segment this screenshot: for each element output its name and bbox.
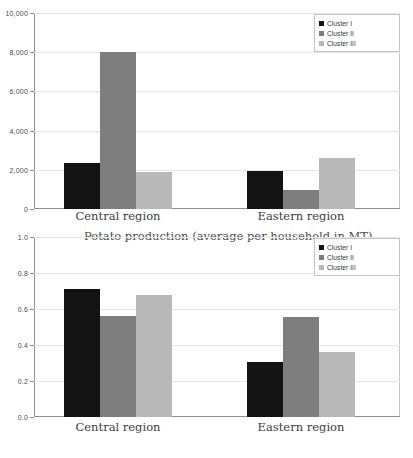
y-tick-mark <box>30 417 34 418</box>
legend-label: Cluster III <box>327 264 356 271</box>
legend-swatch-icon <box>319 245 324 250</box>
y-tick-label: 4,000 <box>9 128 28 135</box>
legend-swatch-icon <box>319 265 324 270</box>
bar-eastern-region-cluster-i <box>247 171 283 209</box>
y-tick-label: 0.4 <box>18 342 28 349</box>
legend-swatch-icon <box>319 31 324 36</box>
legend-label: Cluster I <box>327 20 352 27</box>
y-tick-label: 8,000 <box>9 49 28 56</box>
y-tick-label: 0.0 <box>18 414 28 421</box>
legend-bottom: Cluster ICluster IICluster III <box>314 238 400 276</box>
category-label: Central region <box>76 209 161 223</box>
bar-central-region-cluster-iii <box>136 172 172 209</box>
legend-swatch-icon <box>319 41 324 46</box>
legend-label: Cluster II <box>327 254 354 261</box>
chart-top-livestock: 02,0004,0006,0008,00010,000 Central regi… <box>0 0 413 228</box>
y-tick-label: 0.8 <box>18 270 28 277</box>
bar-central-region-cluster-i <box>64 289 100 417</box>
legend-label: Cluster II <box>327 30 354 37</box>
y-tick-label: 2,000 <box>9 167 28 174</box>
bar-eastern-region-cluster-ii <box>283 190 319 209</box>
y-tick-mark <box>30 209 34 210</box>
bar-central-region-cluster-ii <box>100 52 136 209</box>
legend-label: Cluster I <box>327 244 352 251</box>
bar-eastern-region-cluster-iii <box>319 158 355 209</box>
chart-bottom-potato: Potato production (average per household… <box>0 228 413 458</box>
y-tick-label: 0.6 <box>18 306 28 313</box>
category-label: Eastern region <box>258 420 345 434</box>
category-label: Eastern region <box>258 209 345 223</box>
legend-swatch-icon <box>319 21 324 26</box>
y-tick-label: 6,000 <box>9 88 28 95</box>
y-tick-label: 1.0 <box>18 234 28 241</box>
legend-item[interactable]: Cluster III <box>319 262 394 272</box>
y-tick-label: 10,000 <box>5 10 28 17</box>
bar-eastern-region-cluster-iii <box>319 352 355 417</box>
figure-two-bar-charts: 02,0004,0006,0008,00010,000 Central regi… <box>0 0 413 458</box>
legend-top: Cluster ICluster IICluster III <box>314 14 400 52</box>
legend-item[interactable]: Cluster II <box>319 252 394 262</box>
legend-item[interactable]: Cluster III <box>319 38 394 48</box>
legend-label: Cluster III <box>327 40 356 47</box>
legend-item[interactable]: Cluster I <box>319 242 394 252</box>
bar-central-region-cluster-iii <box>136 295 172 417</box>
y-tick-label: 0 <box>24 206 28 213</box>
legend-item[interactable]: Cluster I <box>319 18 394 28</box>
legend-swatch-icon <box>319 255 324 260</box>
legend-item[interactable]: Cluster II <box>319 28 394 38</box>
bar-central-region-cluster-i <box>64 163 100 209</box>
bar-central-region-cluster-ii <box>100 316 136 417</box>
category-label: Central region <box>76 420 161 434</box>
bar-eastern-region-cluster-i <box>247 362 283 417</box>
bar-eastern-region-cluster-ii <box>283 317 319 417</box>
y-tick-label: 0.2 <box>18 378 28 385</box>
